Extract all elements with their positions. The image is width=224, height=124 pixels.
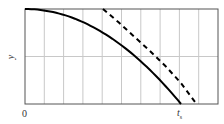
x-tick-zero: 0 [22,109,27,119]
x-tick-ts: ts [177,108,182,122]
chart-canvas [0,0,224,124]
y-axis-label: y [6,55,16,59]
grid-lines [25,9,218,104]
x-tick-ts-sub: s [180,114,182,120]
